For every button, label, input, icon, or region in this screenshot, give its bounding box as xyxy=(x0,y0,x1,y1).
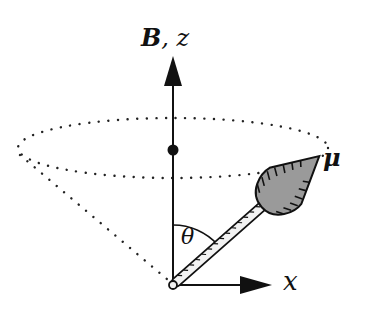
cone-left-edge xyxy=(20,155,168,280)
x-axis-label: x xyxy=(283,268,298,294)
theta-label: θ xyxy=(181,226,194,248)
theta-angle-arc xyxy=(173,225,218,245)
field-b-symbol: B xyxy=(141,23,161,52)
x-axis-arrowhead-icon xyxy=(240,276,272,294)
z-axis xyxy=(164,56,182,285)
precession-diagram: B, z μ θ x xyxy=(0,0,369,314)
z-axis-symbol: z xyxy=(177,24,190,52)
label-separator: , xyxy=(161,24,176,52)
cone-center-dot xyxy=(168,145,179,156)
moment-label: μ xyxy=(323,146,341,170)
field-axis-label: B, z xyxy=(141,26,189,50)
z-axis-arrowhead-icon xyxy=(164,56,182,86)
origin-point xyxy=(169,281,177,289)
